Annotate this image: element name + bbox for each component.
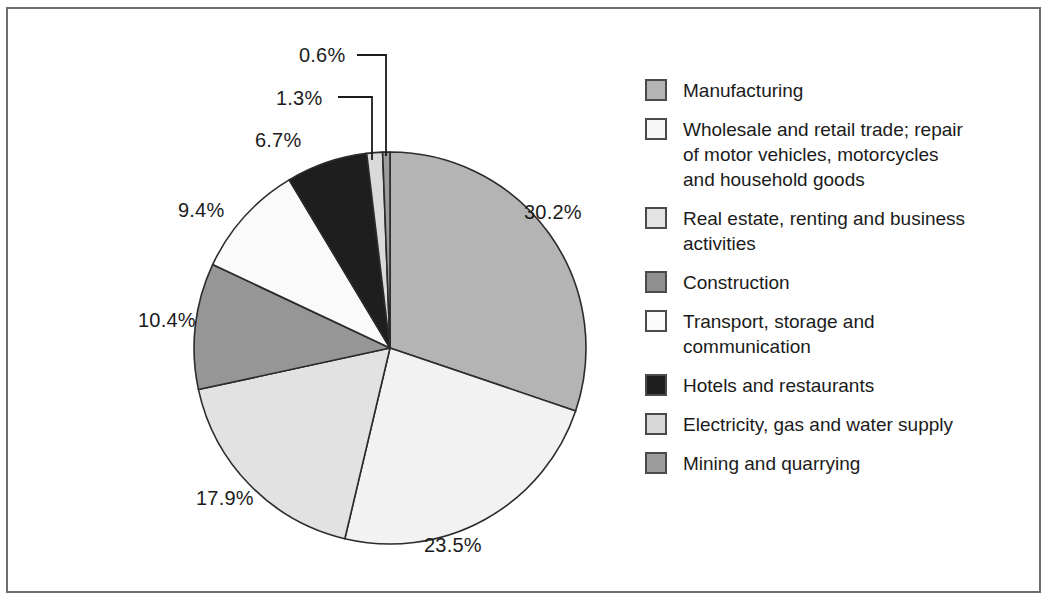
legend-color-swatch <box>645 452 667 474</box>
pie-chart-figure: 30.2%23.5%17.9%10.4%9.4%6.7%1.3%0.6% Man… <box>0 0 1048 607</box>
legend-item-label: Hotels and restaurants <box>683 373 874 398</box>
legend-item-label: Wholesale and retail trade; repair of mo… <box>683 117 965 192</box>
legend-item-label: Mining and quarrying <box>683 451 860 476</box>
legend-color-swatch <box>645 413 667 435</box>
leader-1-3 <box>338 97 372 160</box>
legend-color-swatch <box>645 79 667 101</box>
slice-percentage-label: 30.2% <box>524 201 582 224</box>
legend-color-swatch <box>645 374 667 396</box>
legend-item[interactable]: Electricity, gas and water supply <box>645 412 975 437</box>
legend-color-swatch <box>645 207 667 229</box>
legend-color-swatch <box>645 271 667 293</box>
legend-item-label: Real estate, renting and business activi… <box>683 206 965 256</box>
legend-item[interactable]: Manufacturing <box>645 78 975 103</box>
slice-percentage-label: 17.9% <box>196 487 254 510</box>
legend-item[interactable]: Wholesale and retail trade; repair of mo… <box>645 117 975 192</box>
slice-percentage-label: 23.5% <box>424 534 482 557</box>
slice-percentage-label: 6.7% <box>255 129 301 152</box>
legend-item[interactable]: Real estate, renting and business activi… <box>645 206 975 256</box>
slice-percentage-label: 10.4% <box>138 309 196 332</box>
chart-legend: ManufacturingWholesale and retail trade;… <box>645 78 975 490</box>
slice-percentage-label: 1.3% <box>276 87 322 110</box>
legend-item-label: Electricity, gas and water supply <box>683 412 953 437</box>
legend-item-label: Transport, storage and communication <box>683 309 965 359</box>
legend-color-swatch <box>645 310 667 332</box>
legend-item-label: Manufacturing <box>683 78 803 103</box>
legend-item-label: Construction <box>683 270 790 295</box>
slice-percentage-label: 0.6% <box>299 44 345 67</box>
legend-item[interactable]: Mining and quarrying <box>645 451 975 476</box>
leader-lines-group <box>338 55 386 160</box>
legend-item[interactable]: Transport, storage and communication <box>645 309 975 359</box>
slice-percentage-label: 9.4% <box>178 199 224 222</box>
legend-item[interactable]: Construction <box>645 270 975 295</box>
legend-item[interactable]: Hotels and restaurants <box>645 373 975 398</box>
legend-color-swatch <box>645 118 667 140</box>
